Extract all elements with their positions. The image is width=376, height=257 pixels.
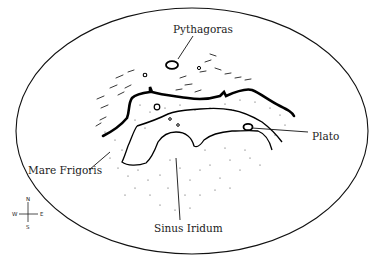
compass-rose: N S E W <box>12 196 44 230</box>
small-crater <box>177 124 180 127</box>
mare-stipple <box>104 99 285 210</box>
compass-east: E <box>40 211 44 217</box>
plato-crater <box>244 124 253 130</box>
small-crater <box>143 73 147 77</box>
small-crater <box>154 104 160 110</box>
label-mare-frigoris: Mare Frigoris <box>28 164 102 176</box>
pythagoras-leader <box>178 36 193 59</box>
compass-south: S <box>26 224 30 230</box>
compass-west: W <box>12 211 18 217</box>
compass-north: N <box>26 196 30 202</box>
pythagoras-crater <box>166 61 178 69</box>
label-plato: Plato <box>312 130 339 142</box>
small-crater <box>169 118 172 121</box>
label-sinus-iridum: Sinus Iridum <box>154 222 223 234</box>
lunar-map: Pythagoras Plato Mare Frigoris Sinus Iri… <box>0 0 376 257</box>
label-pythagoras: Pythagoras <box>173 23 233 35</box>
small-crater <box>197 66 200 69</box>
sinus-iridum-leader <box>176 158 180 220</box>
sinus-iridum-bay <box>122 126 272 165</box>
highland-hatching <box>96 54 251 126</box>
